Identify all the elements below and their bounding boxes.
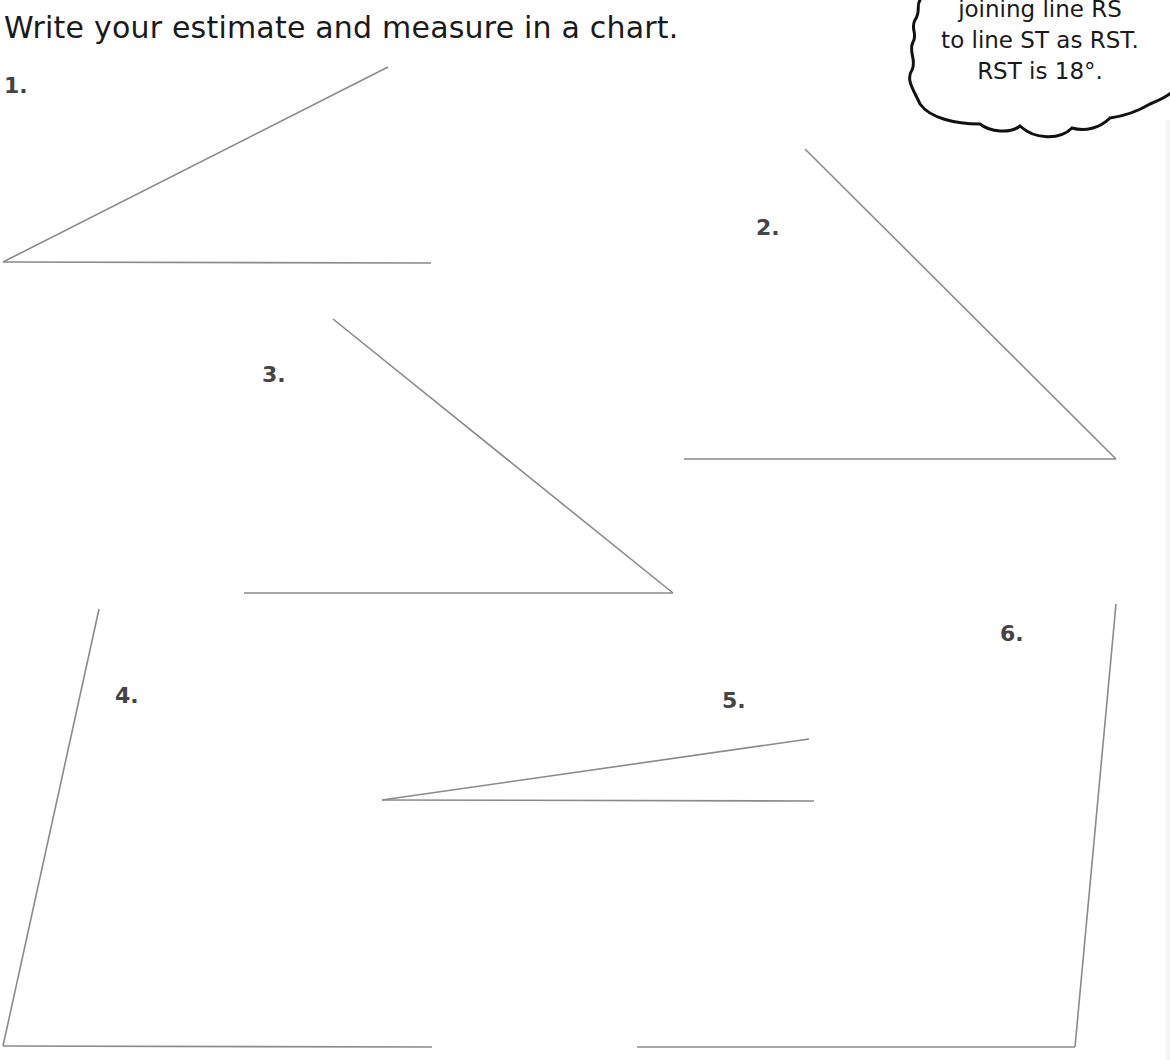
angle-4 bbox=[3, 609, 432, 1047]
angle-label-2: 2. bbox=[756, 215, 780, 240]
angle-5 bbox=[382, 739, 814, 801]
page-edge-shadow bbox=[1164, 120, 1170, 1060]
angle-6 bbox=[637, 604, 1116, 1047]
angle-diagrams bbox=[0, 0, 1170, 1060]
angle-1 bbox=[3, 67, 431, 263]
angle-3 bbox=[244, 319, 673, 593]
angle-label-6: 6. bbox=[1000, 621, 1024, 646]
angle-2 bbox=[684, 149, 1116, 459]
angle-label-1: 1. bbox=[4, 73, 28, 98]
angle-label-4: 4. bbox=[115, 683, 139, 708]
angle-label-3: 3. bbox=[262, 362, 286, 387]
angle-label-5: 5. bbox=[722, 688, 746, 713]
